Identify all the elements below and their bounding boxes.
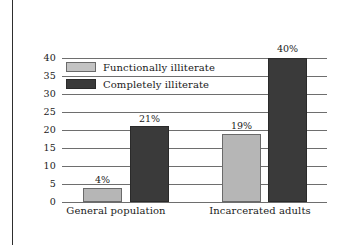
data-label-19-percent: 19% (222, 121, 261, 131)
legend-item-functionally-illiterate[interactable]: Functionally illiterate (66, 60, 216, 74)
x-category-general-population: General population (36, 205, 196, 216)
legend-swatch-dark-gray (66, 79, 96, 89)
legend-label-completely-illiterate: Completely illiterate (103, 79, 209, 90)
data-label-40-percent: 40% (268, 44, 307, 54)
y-tick-35: 35 (44, 71, 57, 80)
y-tick-15: 15 (44, 143, 57, 152)
y-axis-tick-labels: 40 35 30 25 20 15 10 5 0 (30, 58, 56, 202)
y-tick-20: 20 (44, 125, 57, 134)
data-label-21-percent: 21% (130, 114, 169, 124)
data-label-4-percent: 4% (83, 175, 122, 185)
bar-incarcerated-adults-functionally-illiterate[interactable] (222, 134, 261, 202)
bar-chart-figure: 40 35 30 25 20 15 10 5 0 4% 21% 19% 40% … (0, 0, 348, 245)
chart-legend: Functionally illiterate Completely illit… (66, 60, 216, 94)
legend-label-functionally-illiterate: Functionally illiterate (103, 62, 215, 73)
page-margin-rule (12, 0, 13, 245)
legend-item-completely-illiterate[interactable]: Completely illiterate (66, 77, 216, 91)
legend-swatch-light-gray (66, 62, 96, 72)
y-tick-10: 10 (44, 161, 57, 170)
bar-incarcerated-adults-completely-illiterate[interactable] (268, 58, 307, 202)
y-tick-25: 25 (44, 107, 57, 116)
y-tick-30: 30 (44, 89, 57, 98)
y-tick-40: 40 (44, 53, 57, 62)
x-category-incarcerated-adults: Incarcerated adults (180, 205, 340, 216)
bar-general-population-functionally-illiterate[interactable] (83, 188, 122, 202)
y-tick-5: 5 (50, 179, 56, 188)
axis-line-0 (62, 202, 327, 203)
bar-general-population-completely-illiterate[interactable] (130, 126, 169, 202)
